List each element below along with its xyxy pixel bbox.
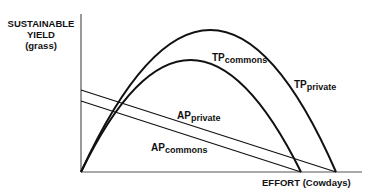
y-axis-label-line: (grass) [6,40,76,51]
y-axis-label: SUSTAINABLE YIELD (grass) [6,18,76,51]
y-axis-label-line: YIELD [6,29,76,40]
label-sub: private [191,113,221,123]
ap-private-label: APprivate [177,111,220,123]
ap-commons-label: APcommons [151,143,207,155]
ap-private-line [81,90,336,172]
x-axis-label: EFFORT (Cowdays) [262,178,351,188]
label-sub: private [307,82,337,92]
label-main: AP [151,142,165,153]
label-main: TP [294,79,307,90]
tp-commons-label: TPcommons [212,53,267,65]
label-main: TP [212,52,225,63]
y-axis-label-line: SUSTAINABLE [6,18,76,29]
tp-private-curve [81,30,336,172]
label-sub: commons [165,145,208,155]
tp-private-label: TPprivate [294,80,336,92]
label-main: AP [177,110,191,121]
label-sub: commons [225,55,268,65]
